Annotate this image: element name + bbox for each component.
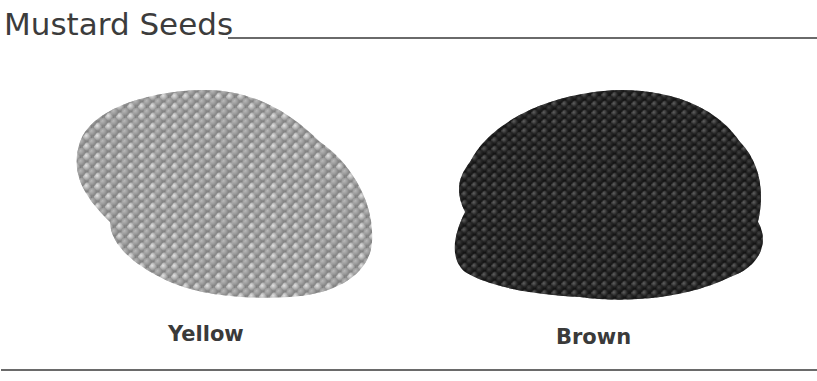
brown-seeds-image [440, 82, 780, 307]
title-rule [228, 37, 817, 39]
yellow-label: Yellow [168, 322, 244, 346]
page-title: Mustard Seeds [4, 6, 233, 42]
bottom-rule [1, 369, 817, 371]
yellow-seeds-image [60, 82, 380, 302]
brown-label: Brown [556, 325, 631, 349]
